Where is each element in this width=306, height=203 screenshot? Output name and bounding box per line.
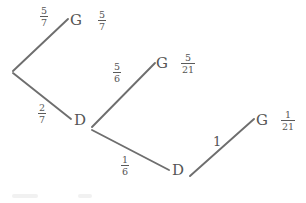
branch-probability-d1-g2: 5 6 <box>113 62 121 84</box>
fraction-denominator: 7 <box>40 17 48 27</box>
scan-artifact <box>12 194 38 198</box>
node-d1: D <box>74 113 86 128</box>
fraction-denominator: 7 <box>98 21 106 31</box>
branch-probability-root-g1: 5 7 <box>40 6 48 28</box>
branch-line-d1-to-g2 <box>92 63 155 127</box>
branch-line-d2-to-g3 <box>190 119 254 176</box>
fraction-numerator: 5 <box>98 10 106 21</box>
fraction-numerator: 2 <box>38 103 46 114</box>
outcome-probability-g2: 5 21 <box>181 53 195 75</box>
fraction-denominator: 7 <box>38 114 46 124</box>
node-g1: G <box>70 13 82 28</box>
outcome-probability-g3: 1 21 <box>281 110 295 132</box>
fraction-numerator: 5 <box>40 6 48 17</box>
fraction-numerator: 5 <box>181 53 195 64</box>
probability-tree-diagram: G D G D G 5 7 2 7 5 6 1 6 1 5 7 5 21 1 2… <box>0 0 306 203</box>
fraction-denominator: 21 <box>281 121 295 131</box>
node-d2: D <box>172 163 184 178</box>
branch-line-d1-to-d2 <box>92 130 169 170</box>
branch-probability-root-d1: 2 7 <box>38 103 46 125</box>
branch-probability-d2-g3: 1 <box>213 135 221 148</box>
fraction-numerator: 1 <box>121 155 129 166</box>
fraction-denominator: 6 <box>121 166 129 176</box>
node-g3: G <box>256 113 268 128</box>
fraction-denominator: 21 <box>181 64 195 74</box>
fraction-numerator: 5 <box>113 62 121 73</box>
scan-artifact <box>78 194 92 198</box>
branch-probability-d1-d2: 1 6 <box>121 155 129 177</box>
outcome-probability-g1: 5 7 <box>98 10 106 32</box>
tree-branch-lines <box>0 0 306 203</box>
fraction-denominator: 6 <box>113 73 121 83</box>
fraction-numerator: 1 <box>281 110 295 121</box>
node-g2: G <box>156 56 168 71</box>
